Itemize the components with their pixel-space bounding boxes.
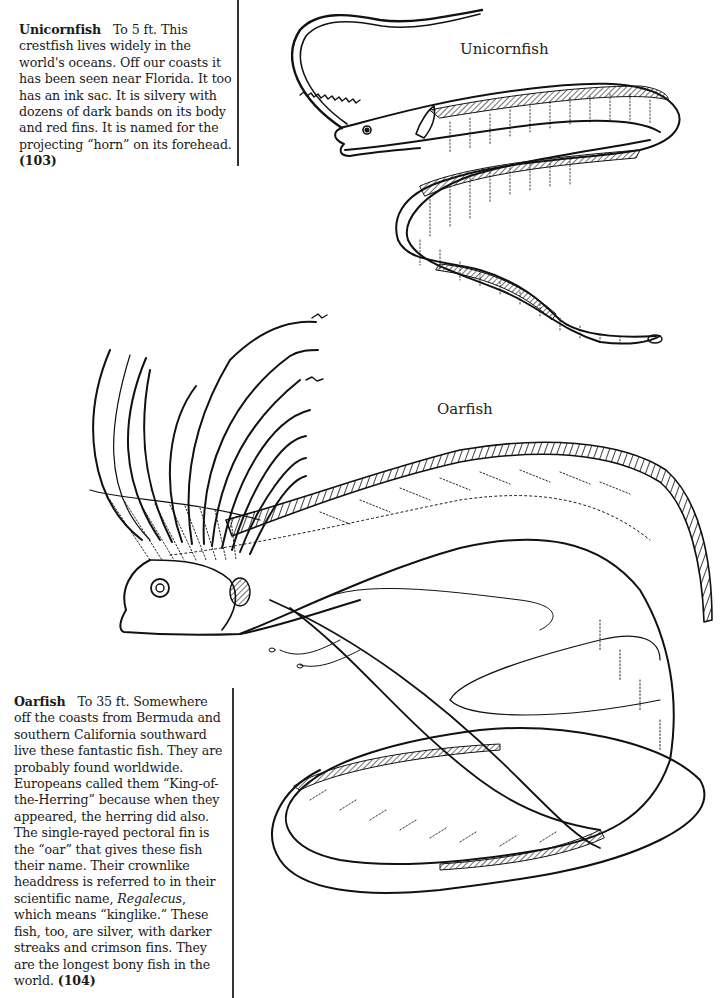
species-description: This crestfish lives widely in the world… [19,22,232,152]
species-name: Unicornfish [19,22,101,37]
scientific-name: Regalecus [117,891,182,906]
species-size: To 35 ft. [77,694,129,709]
caption-unicornfish: Unicornfish To 5 ft. This crestfish live… [19,22,237,170]
illustration-label-oarfish: Oarfish [437,400,493,418]
species-description: Somewhere off the coasts from Bermuda an… [14,694,222,906]
column-divider-bottom [232,688,234,998]
species-size: To 5 ft. [113,22,157,37]
plate-number: (103) [19,153,57,168]
caption-oarfish: Oarfish To 35 ft. Somewhere off the coas… [14,694,226,989]
plate-number: (104) [58,973,96,988]
species-name: Oarfish [14,694,66,709]
unicornfish-illustration [292,10,679,344]
column-divider-top [237,0,239,166]
illustration-label-unicornfish: Unicornfish [460,40,549,58]
